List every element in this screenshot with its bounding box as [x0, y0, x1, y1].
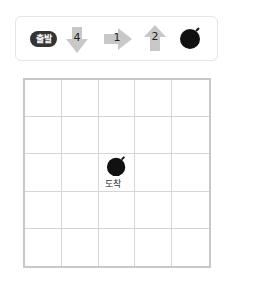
grid-cell	[99, 117, 136, 154]
grid-cell	[135, 192, 172, 229]
grid-cell	[25, 80, 62, 117]
grid-cell	[62, 154, 99, 191]
grid-cell	[99, 192, 136, 229]
grid-cell	[62, 192, 99, 229]
grid-cell	[135, 117, 172, 154]
grid-cell	[99, 80, 136, 117]
grid-cell	[135, 229, 172, 266]
grid-cell	[25, 117, 62, 154]
grid-cell	[172, 229, 209, 266]
grid-cell	[172, 192, 209, 229]
bomb-icon	[179, 26, 203, 54]
grid-cell	[172, 154, 209, 191]
grid-cell	[25, 154, 62, 191]
grid-cell	[135, 154, 172, 191]
grid-cell	[62, 229, 99, 266]
start-badge: 출발	[30, 31, 57, 47]
grid-cell	[25, 229, 62, 266]
step-count: 4	[66, 31, 88, 44]
step-count: 1	[106, 31, 128, 44]
grid-cell	[172, 80, 209, 117]
grid-cell	[99, 229, 136, 266]
goal-label: 도착	[105, 177, 121, 190]
step-count: 2	[144, 30, 166, 43]
grid-cell	[135, 80, 172, 117]
grid-cell	[62, 80, 99, 117]
direction-sequence-panel: 출발 4 1 2	[15, 16, 218, 61]
grid-cell	[172, 117, 209, 154]
grid-cell	[62, 117, 99, 154]
grid-cell	[25, 192, 62, 229]
